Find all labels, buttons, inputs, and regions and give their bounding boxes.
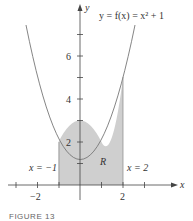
y-tick-label-2: 2: [66, 138, 71, 148]
x-tick-label-neg2: −2: [30, 192, 41, 202]
y-axis-label: y: [85, 3, 89, 13]
x-tick-label-2: 2: [120, 192, 125, 202]
figure-caption: FIGURE 13: [9, 212, 55, 221]
chart-canvas: [0, 0, 193, 221]
y-axis-arrow-icon: [78, 4, 83, 11]
left-bound-label: x = −1: [29, 163, 57, 173]
x-axis-label: x: [180, 180, 184, 190]
equation-label: y = f(x) = x² + 1: [99, 11, 164, 21]
y-tick-label-4: 4: [66, 95, 71, 105]
y-tick-label-6: 6: [66, 52, 71, 62]
right-bound-label: x = 2: [127, 163, 148, 173]
x-axis-arrow-icon: [171, 183, 178, 188]
region-label: R: [100, 157, 106, 167]
